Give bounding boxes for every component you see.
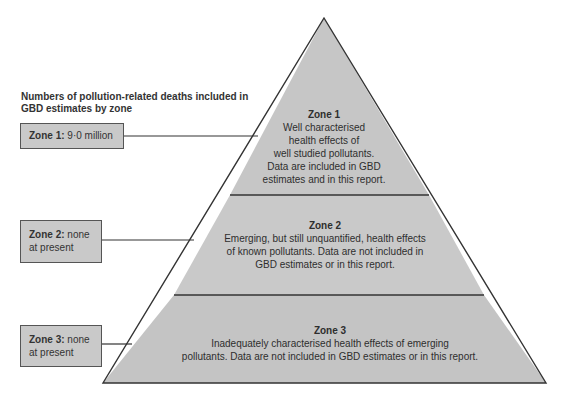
zone-2-line: GBD estimates or in this report. (200, 258, 450, 271)
zone-2-line: Emerging, but still unquantified, health… (200, 232, 450, 245)
zone-3-text: Zone 3 Inadequately characterised health… (165, 324, 495, 363)
zone-3-title: Zone 3 (165, 324, 495, 337)
zone-2-title: Zone 2 (200, 219, 450, 232)
zone-1-line: well studied pollutants. (249, 147, 399, 160)
zone-1-line: estimates and in this report. (249, 173, 399, 186)
legend-box-zone-1: Zone 1: 9·0 million (20, 123, 124, 149)
zone-1-line: Data are included in GBD (249, 160, 399, 173)
zone-1-line: health effects of (249, 134, 399, 147)
zone-3-line: pollutants. Data are not included in GBD… (165, 350, 495, 363)
zone-1-title: Zone 1 (249, 108, 399, 121)
zone-1-line: Well characterised (249, 121, 399, 134)
legend-box-value: 9·0 million (67, 130, 113, 141)
legend-box-label: Zone 2: (29, 229, 65, 240)
zone-1-text: Zone 1 Well characterised health effects… (249, 108, 399, 186)
zone-2-line: of known pollutants. Data are not includ… (200, 245, 450, 258)
zone-3-line: Inadequately characterised health effect… (165, 337, 495, 350)
zone-2-text: Zone 2 Emerging, but still unquantified,… (200, 219, 450, 271)
legend-box-label: Zone 3: (29, 334, 65, 345)
legend-box-zone-3: Zone 3: none at present (20, 325, 102, 367)
legend-box-label: Zone 1: (29, 130, 65, 141)
legend-box-zone-2: Zone 2: none at present (20, 220, 102, 263)
